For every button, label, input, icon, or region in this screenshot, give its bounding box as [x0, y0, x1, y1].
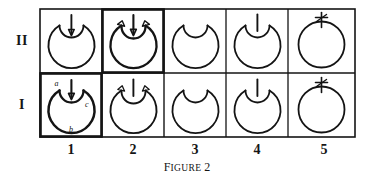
annotation-label-a: a	[55, 79, 59, 88]
figure-grid: a c b	[0, 0, 374, 179]
figure-2: II I 1 2 3 4 5	[0, 0, 374, 179]
annotation-label-b: b	[69, 125, 73, 134]
figure-caption: FIGURE 2	[0, 160, 374, 175]
caption-word: IGURE	[170, 163, 201, 173]
annotation-label-c: c	[85, 100, 89, 109]
caption-number: 2	[204, 160, 210, 174]
